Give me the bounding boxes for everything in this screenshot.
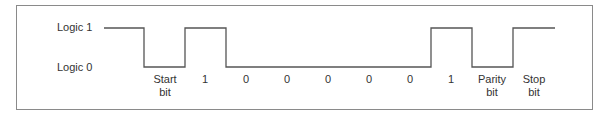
bit-label-data-5: 0 bbox=[349, 73, 389, 86]
bit-label-data-4: 0 bbox=[308, 73, 348, 86]
bit-label-parity: Paritybit bbox=[472, 73, 512, 99]
bit-label-data-2: 0 bbox=[226, 73, 266, 86]
bit-label-stop: Stopbit bbox=[514, 73, 554, 99]
bit-label-data-1: 1 bbox=[185, 73, 225, 86]
bit-label-data-6: 0 bbox=[390, 73, 430, 86]
bit-label-data-3: 0 bbox=[267, 73, 307, 86]
bit-label-data-7: 1 bbox=[431, 73, 471, 86]
bit-label-start: Startbit bbox=[145, 73, 185, 99]
